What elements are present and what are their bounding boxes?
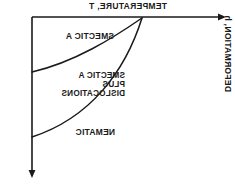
region-label-nematic: NEMATIC — [76, 128, 116, 137]
deformation-axis-arrowhead — [29, 170, 36, 178]
deformation-axis-label: DEFORMATION, h — [223, 15, 233, 92]
phase-diagram: TEMPERATURE, T DEFORMATION, h SMECTIC A … — [0, 0, 235, 185]
region-label-line-3: DISLOCATIONS — [61, 90, 125, 99]
phase-boundary-upper — [32, 18, 142, 72]
temperature-axis-label: TEMPERATURE, T — [89, 1, 167, 11]
region-label-smectic-a-plus-dislocations: SMECTIC A PLUS DISLOCATIONS — [61, 72, 125, 99]
region-label-smectic-a: SMECTIC A — [66, 32, 114, 41]
mirrored-figure-layer: TEMPERATURE, T DEFORMATION, h SMECTIC A … — [0, 0, 235, 185]
